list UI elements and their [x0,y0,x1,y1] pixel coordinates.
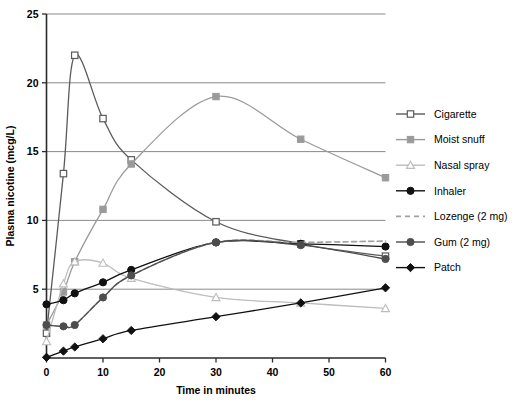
data-point-marker [43,301,50,308]
y-axis-title: Plasma nicotine (mcg/L) [4,126,16,247]
legend-swatch-marker [407,187,414,194]
data-point-marker [72,52,78,58]
x-tick-label: 10 [97,366,109,378]
y-tick-label: 20 [27,77,39,89]
x-tick-label: 0 [44,366,50,378]
data-point-marker [213,219,219,225]
legend-swatch-marker [407,111,413,117]
data-point-marker [128,272,135,279]
x-tick-label: 40 [267,366,279,378]
data-point-marker [71,321,78,328]
data-point-marker [71,290,78,297]
x-axis-title: Time in minutes [176,384,256,396]
chart-canvas: 5101520250102030405060 CigaretteMoist sn… [0,0,519,403]
y-tick-label: 15 [27,145,39,157]
legend-swatch-marker [407,136,413,142]
chart-background [0,0,519,403]
x-tick-label: 60 [380,366,392,378]
legend-swatch-marker [407,238,414,245]
legend-item-label: Lozenge (2 mg) [434,210,508,222]
y-tick-label: 10 [27,214,39,226]
legend-item-label: Gum (2 mg) [434,236,490,248]
data-point-marker [99,294,106,301]
legend-item-label: Nasal spray [434,159,490,171]
x-tick-label: 50 [323,366,335,378]
x-tick-label: 20 [154,366,166,378]
legend-item-label: Cigarette [434,108,477,120]
data-point-marker [382,175,388,181]
data-point-marker [43,321,50,328]
data-point-marker [213,93,219,99]
x-tick-label: 30 [210,366,222,378]
legend-item-label: Patch [434,261,461,273]
y-tick-label: 25 [27,8,39,20]
data-point-marker [297,242,304,249]
data-point-marker [212,239,219,246]
legend-item-label: Inhaler [434,185,467,197]
nicotine-plasma-chart: 5101520250102030405060 CigaretteMoist sn… [0,0,519,403]
data-point-marker [99,279,106,286]
data-point-marker [60,297,67,304]
data-point-marker [298,136,304,142]
data-point-marker [382,243,389,250]
data-point-marker [100,206,106,212]
data-point-marker [60,323,67,330]
data-point-marker [128,161,134,167]
data-point-marker [60,170,66,176]
legend-item-label: Moist snuff [434,133,485,145]
data-point-marker [382,255,389,262]
y-tick-label: 5 [33,283,39,295]
data-point-marker [100,115,106,121]
